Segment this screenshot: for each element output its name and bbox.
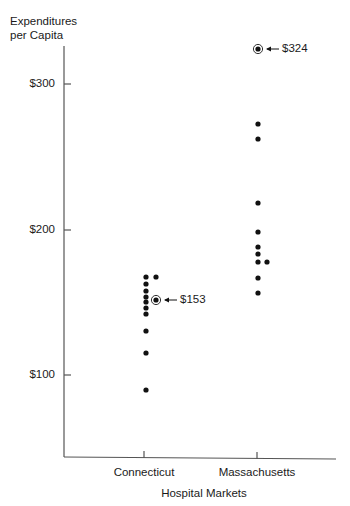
series-connecticut <box>143 274 158 392</box>
x-category-connecticut: Connecticut <box>84 466 204 478</box>
series-massachusetts <box>255 121 269 295</box>
scatter-chart: Expenditures per Capita $300 $200 $100 <box>0 0 350 506</box>
plot-area <box>0 0 350 506</box>
highlight-point-massachusetts <box>253 44 279 53</box>
x-axis-line <box>64 457 336 459</box>
highlight-point-connecticut <box>151 295 177 304</box>
x-axis-title: Hospital Markets <box>104 487 304 499</box>
annotation-massachusetts: $324 <box>282 42 308 54</box>
x-category-massachusetts: Massachusetts <box>197 466 317 478</box>
annotation-connecticut: $153 <box>180 293 206 305</box>
